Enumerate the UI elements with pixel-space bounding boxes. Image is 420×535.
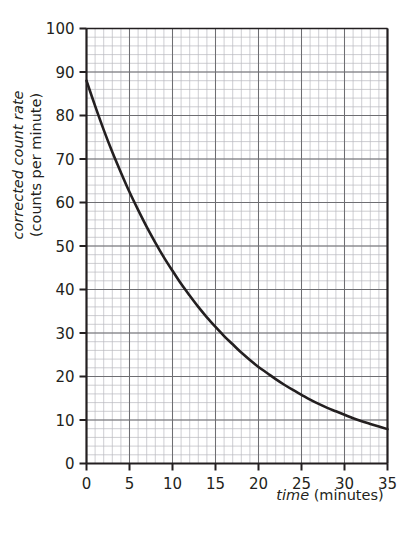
y-tick-label: 40 <box>55 281 74 299</box>
y-axis-tick-labels: 0102030405060708090100 <box>46 20 75 473</box>
y-tick-label: 60 <box>55 194 74 212</box>
x-axis-title-italic: time <box>276 487 309 503</box>
axis-tick-marks <box>80 29 388 471</box>
y-tick-label: 0 <box>65 455 75 473</box>
y-tick-label: 70 <box>55 151 74 169</box>
decay-curve-chart: 0102030405060708090100 05101520253035 ti… <box>0 0 420 535</box>
x-tick-label: 5 <box>125 475 135 493</box>
x-axis-title: time (minutes) <box>276 487 383 503</box>
y-tick-label: 50 <box>55 238 74 256</box>
x-tick-label: 20 <box>249 475 268 493</box>
x-tick-label: 0 <box>82 475 92 493</box>
major-gridlines <box>87 29 388 464</box>
y-tick-label: 100 <box>46 20 75 38</box>
y-axis-title-line1: corrected count rate <box>10 90 26 239</box>
y-tick-label: 20 <box>55 368 74 386</box>
y-axis-title: corrected count rate (counts per minute) <box>10 90 44 239</box>
y-tick-label: 90 <box>55 64 74 82</box>
y-axis-title-line2: (counts per minute) <box>28 93 44 237</box>
x-axis-title-rest: (minutes) <box>309 487 384 503</box>
y-tick-label: 10 <box>55 412 74 430</box>
y-tick-label: 30 <box>55 325 74 343</box>
x-tick-label: 15 <box>206 475 225 493</box>
x-tick-label: 10 <box>163 475 182 493</box>
y-tick-label: 80 <box>55 107 74 125</box>
chart-canvas: 0102030405060708090100 05101520253035 ti… <box>0 0 420 535</box>
